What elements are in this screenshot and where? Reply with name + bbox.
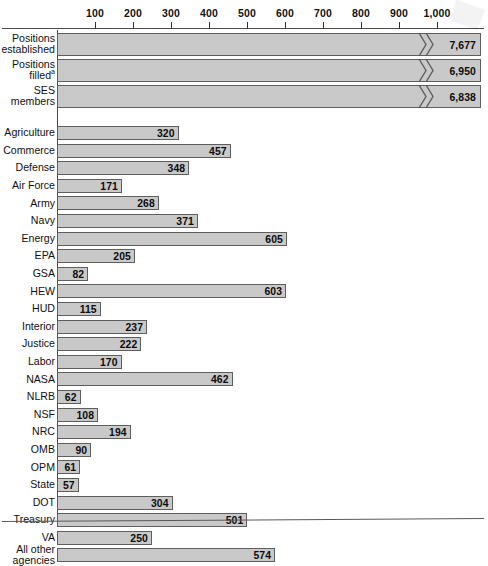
x-axis-tick bbox=[437, 22, 438, 29]
category-label: Labor bbox=[0, 356, 59, 367]
x-axis-tick bbox=[133, 22, 134, 29]
bar-value-label: 82 bbox=[72, 268, 84, 279]
chart-row: Interior237 bbox=[0, 320, 488, 334]
chart-row: NSF108 bbox=[0, 408, 488, 422]
x-axis-tick bbox=[209, 22, 210, 29]
bar[interactable]: 457 bbox=[57, 144, 231, 158]
bar-value-label: 7,677 bbox=[449, 39, 476, 50]
plot-area: Positions established7,677Positions fill… bbox=[0, 30, 488, 526]
axis-break-icon bbox=[418, 85, 434, 108]
bar-value-label: 603 bbox=[264, 286, 282, 297]
bar-value-label: 6,838 bbox=[449, 91, 476, 102]
bar[interactable]: 171 bbox=[57, 179, 122, 193]
bar[interactable]: 222 bbox=[57, 337, 141, 351]
bar[interactable]: 348 bbox=[57, 161, 189, 175]
chart-row: Energy605 bbox=[0, 232, 488, 246]
bar[interactable]: 6,838 bbox=[57, 85, 481, 108]
category-label: NRC bbox=[0, 426, 59, 437]
bar[interactable]: 170 bbox=[57, 355, 122, 369]
bar[interactable]: 90 bbox=[57, 443, 91, 457]
x-axis-tick-label: 500 bbox=[238, 7, 256, 19]
chart-row: EPA205 bbox=[0, 249, 488, 263]
category-label: Defense bbox=[0, 162, 59, 173]
x-axis-tick bbox=[171, 22, 172, 29]
bar[interactable]: 320 bbox=[57, 126, 179, 140]
category-label: NSF bbox=[0, 409, 59, 420]
category-label: EPA bbox=[0, 250, 59, 261]
category-label: Navy bbox=[0, 215, 59, 226]
category-label: NASA bbox=[0, 374, 59, 385]
category-label: Interior bbox=[0, 321, 59, 332]
chart-row: State57 bbox=[0, 478, 488, 492]
bar[interactable]: 268 bbox=[57, 196, 159, 210]
x-axis-tick-label: 1,000 bbox=[424, 7, 451, 19]
chart-row: Navy371 bbox=[0, 214, 488, 228]
chart-row: SES members6,838 bbox=[0, 85, 488, 108]
chart-row: NASA462 bbox=[0, 372, 488, 386]
chart-row: OMB90 bbox=[0, 443, 488, 457]
bar-value-label: 57 bbox=[63, 480, 75, 491]
bar-value-label: 6,950 bbox=[449, 65, 476, 76]
bar[interactable]: 237 bbox=[57, 320, 147, 334]
bar-value-label: 605 bbox=[265, 233, 283, 244]
bar[interactable]: 62 bbox=[57, 390, 81, 404]
chart-row: NRC194 bbox=[0, 425, 488, 439]
chart-row: Commerce457 bbox=[0, 144, 488, 158]
bar[interactable]: 603 bbox=[57, 284, 286, 298]
bar-value-label: 90 bbox=[75, 444, 87, 455]
category-label: Commerce bbox=[0, 145, 59, 156]
category-label: DOT bbox=[0, 497, 59, 508]
bar[interactable]: 605 bbox=[57, 232, 287, 246]
bar-value-label: 61 bbox=[64, 462, 76, 473]
bar[interactable]: 57 bbox=[57, 478, 79, 492]
category-label: Justice bbox=[0, 338, 59, 349]
bar-value-label: 304 bbox=[151, 497, 169, 508]
category-label: Agriculture bbox=[0, 127, 59, 138]
bar[interactable]: 108 bbox=[57, 408, 98, 422]
bar-value-label: 371 bbox=[176, 216, 194, 227]
category-label: HUD bbox=[0, 303, 59, 314]
category-label: NLRB bbox=[0, 391, 59, 402]
chart-row: DOT304 bbox=[0, 496, 488, 510]
bar[interactable]: 61 bbox=[57, 460, 80, 474]
axis-break-icon bbox=[418, 59, 434, 82]
category-label: Energy bbox=[0, 233, 59, 244]
bar-value-label: 348 bbox=[168, 163, 186, 174]
chart-row: HUD115 bbox=[0, 302, 488, 316]
bar-value-label: 462 bbox=[211, 374, 229, 385]
x-axis-tick-label: 200 bbox=[124, 7, 142, 19]
bar-value-label: 574 bbox=[253, 550, 271, 561]
bar[interactable]: 115 bbox=[57, 302, 101, 316]
chart-row: Positions filleda6,950 bbox=[0, 59, 488, 82]
bar-value-label: 457 bbox=[209, 145, 227, 156]
bar-value-label: 171 bbox=[100, 180, 118, 191]
bar-value-label: 170 bbox=[100, 356, 118, 367]
chart-row: Defense348 bbox=[0, 161, 488, 175]
bar[interactable]: 574 bbox=[57, 548, 275, 562]
axis-break-icon bbox=[418, 33, 434, 56]
bar-value-label: 115 bbox=[80, 304, 97, 315]
bar[interactable]: 371 bbox=[57, 214, 198, 228]
bar-value-label: 194 bbox=[109, 427, 127, 438]
bar[interactable]: 304 bbox=[57, 496, 173, 510]
x-axis-tick bbox=[323, 22, 324, 29]
bar-value-label: 205 bbox=[113, 251, 131, 262]
category-label: VA bbox=[0, 532, 59, 543]
category-label: All other agencies bbox=[0, 544, 59, 566]
bar[interactable]: 250 bbox=[57, 531, 152, 545]
bar[interactable]: 6,950 bbox=[57, 59, 481, 82]
bar[interactable]: 7,677 bbox=[57, 33, 481, 56]
chart-row: Agriculture320 bbox=[0, 126, 488, 140]
bar[interactable]: 82 bbox=[57, 267, 88, 281]
bar[interactable]: 205 bbox=[57, 249, 135, 263]
category-label: Positions filleda bbox=[0, 59, 59, 81]
x-axis-line bbox=[2, 28, 484, 29]
chart-row: Labor170 bbox=[0, 355, 488, 369]
x-axis-tick-label: 100 bbox=[86, 7, 104, 19]
bar[interactable]: 194 bbox=[57, 425, 131, 439]
bar[interactable]: 462 bbox=[57, 372, 233, 386]
x-axis-tick bbox=[361, 22, 362, 29]
category-label: Positions established bbox=[0, 33, 59, 55]
bar-value-label: 320 bbox=[157, 128, 175, 139]
